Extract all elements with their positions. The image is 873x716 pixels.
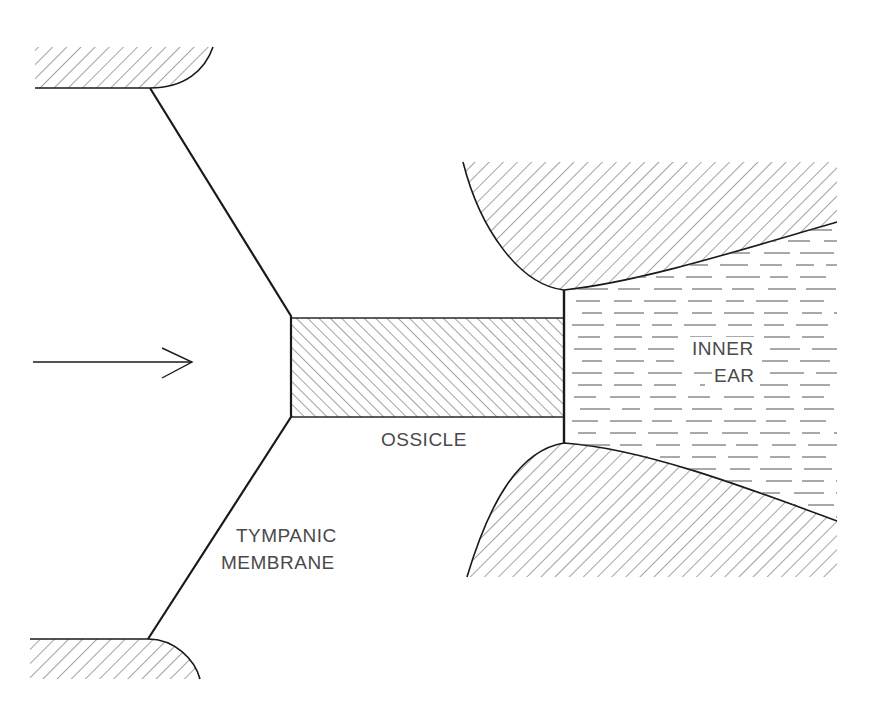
inner-ear-label-line2: EAR (712, 364, 757, 387)
ossicle (291, 318, 564, 417)
bone-bottom-left (30, 639, 200, 679)
inner-ear-label-line1: INNER (690, 337, 756, 360)
tympanic-label-line2: MEMBRANE (221, 551, 335, 574)
tympanic-label-line1: TYMPANIC (236, 524, 337, 547)
bone-top-left (35, 47, 213, 88)
bone-top-right (463, 162, 837, 290)
ossicle-label: OSSICLE (381, 428, 467, 451)
sound-arrow-icon (33, 348, 192, 378)
bone-bottom-right (467, 443, 837, 577)
